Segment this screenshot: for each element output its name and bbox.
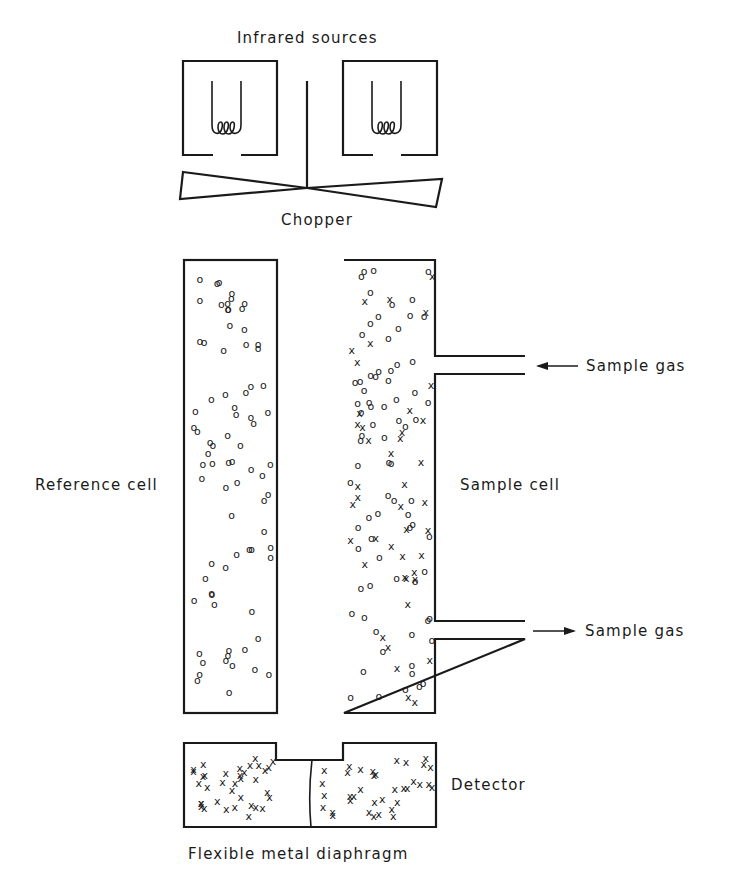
svg-text:o: o bbox=[231, 401, 238, 414]
svg-text:o: o bbox=[421, 565, 428, 578]
svg-text:o: o bbox=[409, 659, 416, 672]
svg-text:o: o bbox=[248, 380, 255, 393]
flexible-diaphragm bbox=[310, 760, 312, 827]
svg-text:x: x bbox=[190, 765, 197, 778]
svg-text:o: o bbox=[395, 414, 402, 427]
svg-text:o: o bbox=[222, 561, 229, 574]
svg-text:o: o bbox=[411, 386, 418, 399]
svg-text:x: x bbox=[405, 691, 412, 704]
svg-text:o: o bbox=[234, 476, 241, 489]
svg-text:o: o bbox=[208, 557, 215, 570]
svg-text:o: o bbox=[239, 302, 246, 315]
svg-text:x: x bbox=[401, 782, 408, 795]
svg-text:o: o bbox=[393, 572, 400, 585]
svg-text:o: o bbox=[386, 456, 393, 469]
detector-molecules: xxxxxxxxxxxxxxxxxxxxxxxxxxxxxxxxxxxxxxxx… bbox=[190, 752, 436, 824]
reference-cell-label: Reference cell bbox=[35, 476, 158, 494]
svg-text:x: x bbox=[429, 781, 436, 794]
svg-text:o: o bbox=[266, 668, 273, 681]
svg-text:o: o bbox=[194, 425, 201, 438]
svg-text:x: x bbox=[394, 754, 401, 767]
svg-text:o: o bbox=[355, 542, 362, 555]
svg-text:x: x bbox=[405, 598, 412, 611]
svg-text:x: x bbox=[253, 773, 260, 786]
svg-text:x: x bbox=[202, 769, 209, 782]
svg-text:x: x bbox=[366, 806, 373, 819]
svg-text:x: x bbox=[241, 766, 248, 779]
svg-text:o: o bbox=[381, 400, 388, 413]
svg-text:x: x bbox=[219, 776, 226, 789]
svg-text:o: o bbox=[366, 511, 373, 524]
svg-text:x: x bbox=[321, 789, 328, 802]
svg-text:o: o bbox=[224, 297, 231, 310]
svg-text:o: o bbox=[208, 393, 215, 406]
filament-icon bbox=[372, 81, 401, 134]
sample-cell-molecules: oxoxooooxoooxoooooxooxxooxoooxoxooooxxxx… bbox=[347, 264, 436, 709]
svg-text:o: o bbox=[412, 575, 419, 588]
svg-text:o: o bbox=[409, 355, 416, 368]
svg-text:o: o bbox=[402, 420, 409, 433]
svg-text:o: o bbox=[225, 456, 232, 469]
inlet-arrow-icon bbox=[536, 362, 578, 370]
svg-text:o: o bbox=[222, 481, 229, 494]
svg-text:x: x bbox=[410, 775, 417, 788]
svg-text:o: o bbox=[361, 611, 368, 624]
svg-text:x: x bbox=[266, 791, 273, 804]
svg-text:x: x bbox=[330, 809, 337, 822]
svg-text:x: x bbox=[399, 550, 406, 563]
svg-text:x: x bbox=[418, 456, 425, 469]
svg-text:x: x bbox=[357, 783, 364, 796]
infrared-source-right bbox=[343, 61, 437, 155]
svg-text:o: o bbox=[357, 582, 364, 595]
svg-text:o: o bbox=[358, 270, 365, 283]
svg-text:o: o bbox=[408, 494, 415, 507]
svg-text:x: x bbox=[422, 496, 429, 509]
svg-text:o: o bbox=[367, 369, 374, 382]
svg-text:o: o bbox=[196, 273, 203, 286]
svg-text:o: o bbox=[405, 508, 412, 521]
svg-text:x: x bbox=[387, 293, 394, 306]
svg-text:o: o bbox=[360, 665, 367, 678]
svg-text:o: o bbox=[373, 625, 380, 638]
svg-text:x: x bbox=[397, 500, 404, 513]
svg-text:o: o bbox=[228, 509, 235, 522]
svg-text:o: o bbox=[425, 396, 432, 409]
svg-text:x: x bbox=[321, 764, 328, 777]
svg-text:o: o bbox=[248, 411, 255, 424]
svg-text:o: o bbox=[393, 393, 400, 406]
svg-text:o: o bbox=[261, 525, 268, 538]
svg-text:o: o bbox=[370, 418, 377, 431]
svg-text:x: x bbox=[248, 799, 255, 812]
svg-text:x: x bbox=[357, 763, 364, 776]
svg-text:o: o bbox=[246, 543, 253, 556]
svg-text:o: o bbox=[237, 439, 244, 452]
svg-text:o: o bbox=[409, 293, 416, 306]
svg-text:x: x bbox=[418, 549, 425, 562]
svg-text:o: o bbox=[370, 264, 377, 277]
svg-text:x: x bbox=[347, 534, 354, 547]
svg-text:o: o bbox=[222, 388, 229, 401]
svg-text:o: o bbox=[226, 686, 233, 699]
svg-text:x: x bbox=[349, 344, 356, 357]
svg-text:x: x bbox=[388, 803, 395, 816]
chopper bbox=[180, 81, 442, 207]
svg-text:o: o bbox=[425, 265, 432, 278]
svg-text:o: o bbox=[243, 338, 250, 351]
svg-text:o: o bbox=[255, 632, 262, 645]
svg-text:x: x bbox=[428, 379, 435, 392]
svg-text:o: o bbox=[375, 507, 382, 520]
svg-text:x: x bbox=[223, 803, 230, 816]
svg-text:o: o bbox=[242, 643, 249, 656]
svg-text:x: x bbox=[231, 801, 238, 814]
svg-text:o: o bbox=[255, 342, 262, 355]
svg-text:x: x bbox=[259, 802, 266, 815]
svg-text:o: o bbox=[220, 344, 227, 357]
svg-text:x: x bbox=[355, 480, 362, 493]
svg-text:x: x bbox=[388, 540, 395, 553]
svg-text:o: o bbox=[385, 489, 392, 502]
svg-text:o: o bbox=[267, 458, 274, 471]
svg-text:o: o bbox=[394, 358, 401, 371]
svg-text:o: o bbox=[260, 379, 267, 392]
svg-text:x: x bbox=[247, 759, 254, 772]
svg-text:o: o bbox=[259, 469, 266, 482]
